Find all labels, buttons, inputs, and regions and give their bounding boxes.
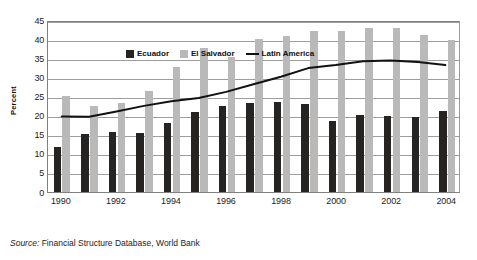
y-tick-label: 25 bbox=[22, 93, 44, 102]
legend-label: Latin America bbox=[262, 49, 315, 58]
chart-legend: EcuadorEl SalvadorLatin America bbox=[126, 49, 320, 58]
source-note: Source: Financial Structure Database, Wo… bbox=[10, 238, 200, 248]
y-tick-label: 30 bbox=[22, 74, 44, 83]
x-tick-label: 1998 bbox=[261, 196, 301, 206]
legend-item-el-salvador: El Salvador bbox=[180, 49, 235, 58]
y-tick-label: 45 bbox=[22, 17, 44, 26]
x-tick-label: 1996 bbox=[206, 196, 246, 206]
x-tick-label: 1992 bbox=[96, 196, 136, 206]
y-tick-label: 10 bbox=[22, 150, 44, 159]
x-tick-label: 1990 bbox=[41, 196, 81, 206]
line-series-latin-america bbox=[48, 22, 459, 192]
x-tick-label: 2004 bbox=[426, 196, 466, 206]
x-tick-label: 1994 bbox=[151, 196, 191, 206]
y-tick-label: 15 bbox=[22, 131, 44, 140]
dark-square-icon bbox=[126, 50, 134, 58]
legend-item-latin-america: Latin America bbox=[246, 49, 315, 58]
x-tick-label: 2000 bbox=[316, 196, 356, 206]
chart-figure: 454035302520151050 Percent EcuadorEl Sal… bbox=[0, 0, 477, 260]
plot-area: EcuadorEl SalvadorLatin America bbox=[47, 21, 460, 193]
light-square-icon bbox=[180, 50, 188, 58]
y-tick-label: 35 bbox=[22, 55, 44, 64]
legend-label: El Salvador bbox=[191, 49, 235, 58]
y-tick-label: 20 bbox=[22, 112, 44, 121]
source-prefix: Source: bbox=[10, 238, 39, 248]
x-axis-tick-labels: 19901992199419961998200020022004 bbox=[47, 196, 460, 210]
source-text: Financial Structure Database, World Bank bbox=[42, 238, 200, 248]
line-icon bbox=[246, 53, 259, 55]
legend-label: Ecuador bbox=[137, 49, 169, 58]
y-tick-label: 5 bbox=[22, 169, 44, 178]
y-axis-title: Percent bbox=[9, 71, 18, 131]
legend-item-ecuador: Ecuador bbox=[126, 49, 169, 58]
y-axis-tick-labels: 454035302520151050 bbox=[18, 0, 44, 260]
x-tick-label: 2002 bbox=[371, 196, 411, 206]
y-tick-label: 40 bbox=[22, 36, 44, 45]
